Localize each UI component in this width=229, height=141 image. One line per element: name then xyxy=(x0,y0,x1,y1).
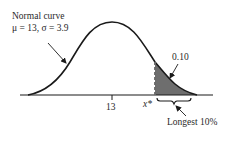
normal-curve-diagram: Normal curve μ = 13, σ = 3.9 0.10 13 x* … xyxy=(0,0,229,141)
parameters-label: μ = 13, σ = 3.9 xyxy=(12,23,69,33)
curve-label: Normal curve xyxy=(12,11,65,21)
tail-area-label: 0.10 xyxy=(172,52,189,62)
tail-area-arrow xyxy=(170,64,178,78)
tail-description-arrow xyxy=(176,106,186,116)
tail-brace xyxy=(157,98,191,104)
curve-label-arrow xyxy=(48,43,66,63)
tail-description-label: Longest 10% xyxy=(167,117,217,127)
cutoff-label: x* xyxy=(143,99,152,109)
mean-tick-label: 13 xyxy=(106,102,116,112)
